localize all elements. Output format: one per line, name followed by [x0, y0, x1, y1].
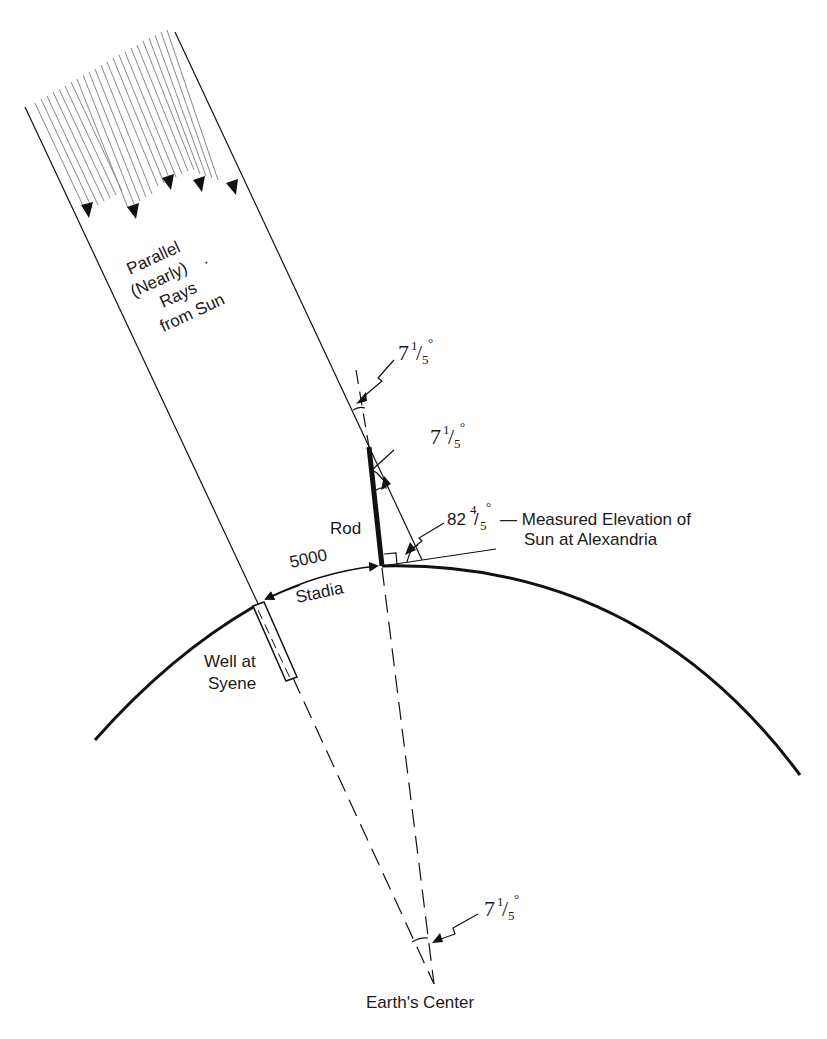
tangent-line — [382, 549, 496, 566]
elevation-whole: 82 — [447, 510, 466, 529]
elevation-caption-line2: Sun at Alexandria — [524, 530, 658, 549]
right-angle-mark — [384, 553, 397, 565]
angle-center-deg: ° — [514, 891, 519, 906]
elevation-label: 82 4 / 5 ° — Measured Elevation of Sun a… — [447, 499, 691, 549]
eratosthenes-diagram: Parallel (Nearly) . Rays from Sun 7 1 / … — [0, 0, 827, 1039]
angle-label-rod: 7 1 / 5 ° — [430, 419, 465, 451]
ray-arrowheads — [81, 174, 238, 219]
angle-top-whole: 7 — [398, 340, 409, 365]
angle-rod-whole: 7 — [430, 424, 441, 449]
well-at-syene — [253, 602, 297, 681]
elevation-deg: ° — [486, 499, 491, 514]
sun-rays-label: Parallel (Nearly) . Rays from Sun — [118, 229, 229, 341]
leader-arrowheads — [356, 392, 443, 943]
distance-value: 5000 — [288, 545, 329, 571]
distance-unit: Stadia — [294, 578, 346, 607]
earth-center-label: Earth's Center — [366, 993, 474, 1012]
rod-to-center-dashed — [382, 568, 434, 984]
left-ray-boundary — [25, 107, 261, 610]
rod-label: Rod — [330, 519, 361, 538]
angle-rod-den: 5 — [454, 436, 461, 451]
elevation-den: 5 — [480, 518, 487, 533]
earth-surface-arc-right — [382, 566, 800, 775]
earth-surface-arc — [95, 606, 255, 740]
well-label-line2: Syene — [208, 674, 256, 693]
angle-center-whole: 7 — [484, 896, 495, 921]
rod-vertical-dashed-top — [356, 370, 369, 447]
rod — [369, 447, 382, 566]
angle-label-top: 7 1 / 5 ° — [398, 335, 433, 367]
sun-rays — [35, 30, 238, 219]
angle-top-den: 5 — [422, 352, 429, 367]
leader-lines — [362, 360, 478, 940]
elevation-slash: / — [474, 510, 479, 529]
angle-rod-deg: ° — [460, 419, 465, 434]
angle-top-deg: ° — [428, 335, 433, 350]
well-to-center-dashed — [270, 628, 434, 984]
angle-mark-top — [353, 407, 365, 410]
label-dot: . — [198, 249, 210, 268]
angle-label-center: 7 1 / 5 ° — [484, 891, 519, 923]
well-label-line1: Well at — [204, 652, 256, 671]
elevation-caption-line1: — Measured Elevation of — [500, 510, 691, 529]
angle-center-den: 5 — [508, 908, 515, 923]
angle-mark-center — [412, 938, 428, 942]
